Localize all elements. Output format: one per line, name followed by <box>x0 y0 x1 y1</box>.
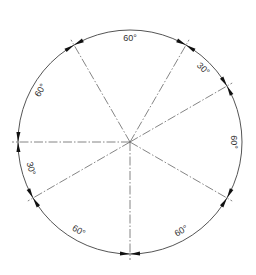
diagram-canvas: 60°30°60°60°60°30°60° <box>0 0 256 275</box>
angle-label: 60° <box>123 33 137 43</box>
center-line <box>130 142 232 201</box>
center-line <box>28 142 130 201</box>
angle-label: 60° <box>173 223 190 239</box>
center-line <box>130 40 189 142</box>
arrowhead-icon <box>64 45 74 52</box>
arrowhead-icon <box>176 39 186 45</box>
angle-label: 60° <box>229 135 239 149</box>
arrowhead-icon <box>227 188 233 198</box>
center-lines <box>12 40 232 260</box>
arrowhead-icon <box>27 188 33 198</box>
arrowhead-icon <box>74 39 84 45</box>
angle-label: 60° <box>70 223 87 239</box>
arrowhead-icon <box>220 76 227 86</box>
center-line <box>130 83 232 142</box>
angle-labels: 60°30°60°60°60°30°60° <box>25 33 239 238</box>
arrowhead-icon <box>220 198 227 208</box>
arrowhead-icon <box>33 198 40 208</box>
angle-dimension-diagram: 60°30°60°60°60°30°60° <box>0 0 256 275</box>
arrowhead-icon <box>186 45 196 52</box>
angle-label: 30° <box>25 161 38 177</box>
center-line <box>71 40 130 142</box>
angle-label: 60° <box>33 81 49 98</box>
arrowhead-icon <box>227 86 233 96</box>
